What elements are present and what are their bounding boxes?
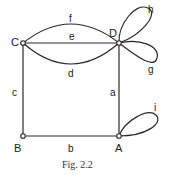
edge-label-e: e: [69, 31, 75, 42]
vertex-D: [117, 41, 122, 46]
vertex-C: [21, 41, 26, 46]
vertex-label-B: B: [14, 142, 21, 154]
edge-label-c: c: [12, 87, 17, 98]
vertex-label-C: C: [11, 36, 19, 48]
vertex-B: [21, 134, 26, 139]
edge-i: [119, 113, 158, 136]
edge-label-f: f: [69, 13, 72, 24]
edge-h: [119, 7, 152, 43]
vertex-label-A: A: [115, 142, 123, 154]
vertex-label-D: D: [109, 27, 117, 39]
edge-g: [119, 41, 157, 62]
edge-d: [23, 43, 119, 64]
edge-label-g: g: [148, 64, 154, 75]
vertex-A: [117, 134, 122, 139]
edge-label-d: d: [68, 68, 74, 79]
graph-figure: C D B A f e d c a b h g i Fig. 2.2: [0, 0, 171, 175]
edge-label-i: i: [154, 102, 156, 113]
figure-caption: Fig. 2.2: [62, 159, 93, 170]
edge-label-h: h: [148, 4, 154, 15]
edge-label-a: a: [110, 87, 116, 98]
edge-label-b: b: [68, 143, 74, 154]
